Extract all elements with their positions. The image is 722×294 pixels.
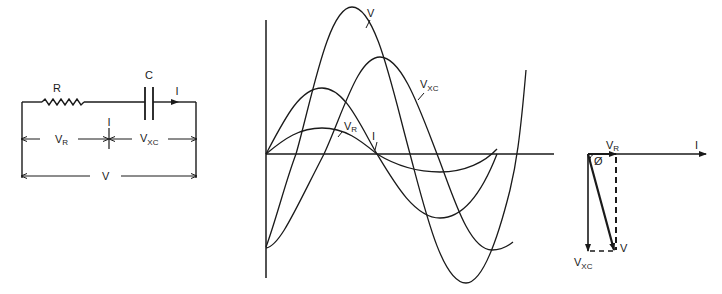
v-phasor-arrow-icon (588, 154, 614, 250)
resistor-label: R (53, 82, 61, 94)
v-waveform (266, 7, 526, 283)
v-total-label: V (102, 170, 110, 182)
vxc-label: VXC (140, 132, 159, 147)
circuit-schematic (22, 87, 196, 178)
phasor-vxc-label: VXC (574, 256, 593, 271)
v-pointer (366, 20, 370, 28)
divider-mark: I (107, 116, 110, 128)
vxc-pointer (418, 93, 424, 100)
resistor-symbol (42, 99, 84, 105)
phasor-vr-label: VR (606, 139, 619, 153)
phasor-diagram (588, 154, 706, 251)
phasor-v-label: V (620, 242, 628, 254)
vr-pointer (338, 132, 342, 137)
rc-series-diagram: R C I I VR VXC V V VXC VR I (0, 0, 722, 294)
vxc-waveform-label: VXC (420, 78, 439, 93)
waveform-graph (266, 7, 554, 283)
phasor-i-label: I (695, 139, 698, 151)
current-label: I (175, 85, 178, 97)
i-pointer (375, 142, 377, 150)
i-waveform-label: I (372, 130, 375, 142)
capacitor-label: C (145, 69, 153, 81)
phasor-phi-label: Ø (594, 155, 603, 167)
v-waveform-label: V (367, 7, 375, 19)
vr-label: VR (55, 133, 68, 147)
vr-waveform-label: VR (344, 120, 357, 134)
